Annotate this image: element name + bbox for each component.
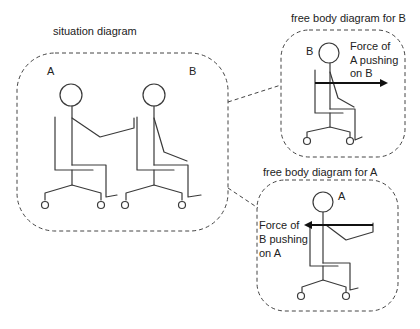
person-b-figure: [122, 84, 202, 209]
situation-label-b: B: [189, 65, 196, 77]
connector-to-fbd-a: [228, 188, 258, 208]
connector-to-fbd-b: [228, 85, 281, 102]
fbd-a-force-label: Force of B pushing on A: [259, 219, 311, 259]
fbd-a-box: [257, 180, 398, 311]
situation-title: situation diagram: [53, 25, 137, 37]
situation-label-a: A: [47, 65, 55, 77]
fbd-a-figure: [298, 192, 374, 300]
diagram-canvas: situation diagram free body diagram for …: [0, 0, 420, 329]
person-a-figure: [42, 84, 135, 209]
fbd-b-label: B: [306, 45, 313, 57]
fbd-a-label: A: [338, 190, 346, 202]
fbd-a-title: free body diagram for A: [263, 166, 378, 178]
fbd-b-title: free body diagram for B: [291, 12, 406, 24]
fbd-b-force-label: Force of A pushing on B: [350, 40, 401, 79]
